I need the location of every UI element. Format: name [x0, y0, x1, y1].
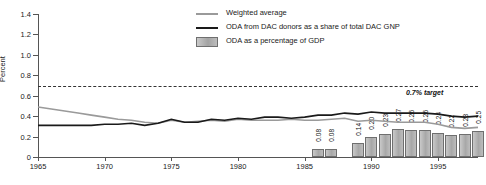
- legend-line-swatch-icon: [196, 27, 218, 29]
- legend-item-oda-dac-share: ODA from DAC donors as a share of total …: [196, 22, 482, 33]
- line-series: [38, 112, 478, 125]
- x-tick-mark: [238, 157, 239, 161]
- x-tick-mark: [105, 157, 106, 161]
- x-tick-label: 1985: [296, 162, 313, 171]
- x-tick-mark: [38, 157, 39, 161]
- x-tick-mark: [171, 157, 172, 161]
- x-tick-label: 1975: [163, 162, 180, 171]
- legend-box-swatch-icon: [196, 37, 218, 47]
- x-tick-label: 1970: [96, 162, 113, 171]
- y-tick-label: 0.4: [21, 112, 31, 121]
- x-tick-label: 1980: [230, 162, 247, 171]
- legend-label: ODA from DAC donors as a share of total …: [226, 22, 482, 32]
- y-tick-label: 0.6: [21, 91, 31, 100]
- y-axis-label: Percent: [0, 56, 7, 82]
- chart-container: Percent 00.20.40.60.81.01.21.4 196519701…: [0, 0, 486, 185]
- chart-legend: Weighted average ODA from DAC donors as …: [196, 8, 482, 50]
- legend-item-weighted-average: Weighted average: [196, 8, 482, 19]
- y-tick-label: 1.2: [21, 30, 31, 39]
- y-tick-label: 1.4: [21, 10, 31, 19]
- legend-line-swatch-icon: [196, 13, 218, 15]
- legend-label: ODA as a percentage of GDP: [226, 36, 482, 46]
- legend-item-oda-percentage-gdp: ODA as a percentage of GDP: [196, 36, 482, 47]
- x-tick-mark: [305, 157, 306, 161]
- y-tick-label: 0.2: [21, 132, 31, 141]
- y-tick-label: 0: [27, 153, 31, 162]
- x-tick-label: 1995: [430, 162, 447, 171]
- legend-label: Weighted average: [226, 8, 482, 18]
- x-tick-mark: [438, 157, 439, 161]
- x-tick-label: 1965: [30, 162, 47, 171]
- y-tick-label: 1.0: [21, 50, 31, 59]
- x-tick-mark: [371, 157, 372, 161]
- y-tick-label: 0.8: [21, 71, 31, 80]
- x-tick-label: 1990: [363, 162, 380, 171]
